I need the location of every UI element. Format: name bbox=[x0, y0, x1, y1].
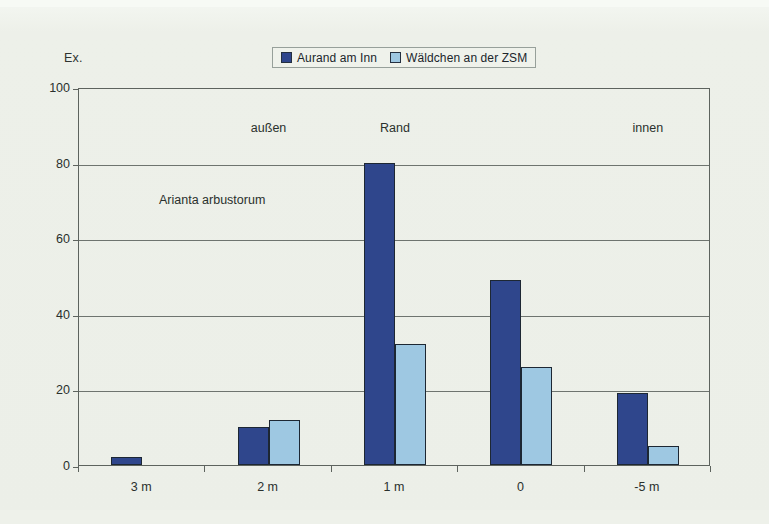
x-axis-tick-label: 0 bbox=[517, 480, 524, 494]
x-axis-tick-label: -5 m bbox=[634, 480, 659, 494]
bar-series-2 bbox=[648, 446, 679, 465]
bar-series-2 bbox=[269, 420, 300, 465]
bar-series-1 bbox=[490, 280, 521, 465]
page-edge-bottom bbox=[0, 510, 769, 524]
y-axis-tick-label: 20 bbox=[56, 383, 70, 397]
bar-series-1 bbox=[617, 393, 648, 465]
legend-swatch-light-blue bbox=[390, 52, 401, 63]
bar-series-1 bbox=[364, 163, 395, 465]
x-axis-tick-label: 2 m bbox=[257, 480, 278, 494]
chart-figure: Ex. Aurand am Inn Wäldchen an der ZSM 02… bbox=[0, 0, 769, 524]
x-axis-tick-mark bbox=[204, 466, 205, 472]
legend-entry-series-1: Aurand am Inn bbox=[281, 51, 377, 65]
y-axis-tick-labels: 020406080100 bbox=[30, 88, 70, 466]
bar-series-1 bbox=[111, 457, 142, 465]
x-axis-tick-label: 1 m bbox=[384, 480, 405, 494]
y-axis-tick-label: 60 bbox=[56, 232, 70, 246]
legend-label-series-1: Aurand am Inn bbox=[297, 51, 377, 65]
bar-series-2 bbox=[521, 367, 552, 465]
legend-label-series-2: Wäldchen an der ZSM bbox=[406, 51, 527, 65]
page-edge-top bbox=[0, 0, 769, 7]
x-axis: 3 m2 m1 m0-5 m bbox=[78, 466, 710, 506]
x-axis-tick-mark bbox=[331, 466, 332, 472]
y-axis-tick-label: 100 bbox=[49, 81, 70, 95]
y-axis-tick-label: 80 bbox=[56, 157, 70, 171]
chart-legend: Aurand am Inn Wäldchen an der ZSM bbox=[272, 47, 536, 68]
x-axis-tick-mark bbox=[710, 466, 711, 472]
y-axis-tick-label: 40 bbox=[56, 308, 70, 322]
x-axis-tick-mark bbox=[584, 466, 585, 472]
plot-area: außenRandinnen Arianta arbustorum bbox=[78, 88, 710, 466]
x-axis-tick-label: 3 m bbox=[131, 480, 152, 494]
legend-swatch-dark-blue bbox=[281, 52, 292, 63]
x-axis-tick-mark bbox=[457, 466, 458, 472]
bar-series-2 bbox=[395, 344, 426, 465]
legend-entry-series-2: Wäldchen an der ZSM bbox=[390, 51, 527, 65]
x-axis-tick-mark bbox=[78, 466, 79, 472]
bar-series-1 bbox=[238, 427, 269, 465]
bar-group-container bbox=[79, 89, 709, 465]
y-axis-tick-label: 0 bbox=[63, 459, 70, 473]
y-axis-title: Ex. bbox=[64, 51, 83, 65]
